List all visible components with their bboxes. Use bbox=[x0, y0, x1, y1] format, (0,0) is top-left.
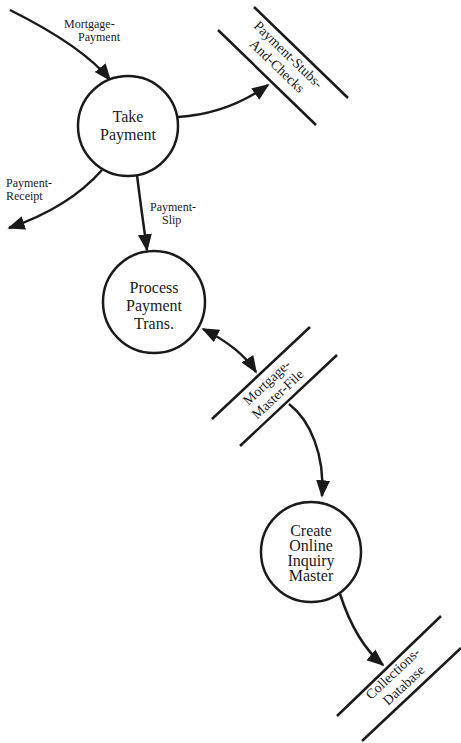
process-label-process-payment-1: Process bbox=[130, 279, 179, 296]
process-take-payment[interactable]: Take Payment bbox=[78, 76, 178, 176]
flow-label-payment-slip-1: Payment- bbox=[150, 200, 196, 214]
process-create-online-inquiry-master[interactable]: Create Online Inquiry Master bbox=[261, 502, 361, 602]
flow-payment-receipt: Payment- Receipt bbox=[6, 170, 102, 228]
flow-label-payment-receipt-2: Receipt bbox=[6, 189, 43, 203]
process-label-take-payment-2: Payment bbox=[100, 126, 157, 144]
flow-label-payment-receipt-1: Payment- bbox=[6, 176, 52, 190]
flow-payment-slip: Payment- Slip bbox=[137, 175, 196, 250]
flow-to-payment-stubs bbox=[178, 85, 268, 117]
flow-to-collections bbox=[340, 594, 383, 665]
process-label-process-payment-2: Payment bbox=[126, 297, 183, 315]
flow-label-mortgage-payment-2: Payment bbox=[78, 30, 121, 44]
datastore-payment-stubs-and-checks[interactable]: Payment-Stubs- And-Checks bbox=[218, 7, 348, 125]
flow-label-mortgage-payment-1: Mortgage- bbox=[64, 17, 115, 31]
flow-master-read bbox=[289, 404, 322, 496]
process-label-take-payment-1: Take bbox=[113, 108, 144, 125]
process-label-create-4: Master bbox=[289, 567, 334, 584]
flow-master-update bbox=[203, 329, 256, 372]
flow-label-payment-slip-2: Slip bbox=[162, 213, 181, 227]
process-process-payment-trans[interactable]: Process Payment Trans. bbox=[103, 251, 205, 353]
process-label-process-payment-3: Trans. bbox=[134, 315, 174, 332]
flow-mortgage-payment: Mortgage- Payment bbox=[10, 10, 121, 80]
datastore-collections-database[interactable]: Collections- Database bbox=[337, 616, 461, 741]
data-flow-diagram: Mortgage- Payment Take Payment Payment-S… bbox=[0, 0, 461, 743]
